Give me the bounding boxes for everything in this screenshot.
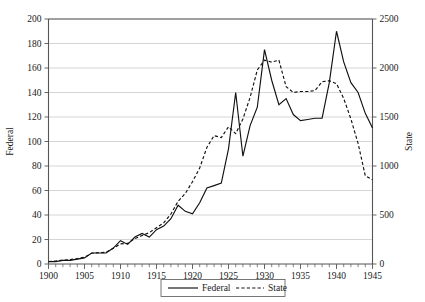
chart-background bbox=[0, 0, 425, 302]
x-tick-label: 1910 bbox=[111, 271, 130, 281]
y-tick-label-right: 1500 bbox=[380, 112, 399, 122]
y-axis-right-title: State bbox=[404, 132, 414, 151]
chart-legend: FederalState bbox=[161, 280, 287, 297]
chart-container: 1900190519101915192019251930193519401945… bbox=[0, 0, 425, 302]
x-tick-label: 1940 bbox=[327, 271, 346, 281]
y-tick-label-left: 40 bbox=[32, 210, 42, 220]
legend-label-state: State bbox=[268, 283, 287, 293]
y-tick-label-left: 140 bbox=[27, 88, 42, 98]
x-tick-label: 1905 bbox=[75, 271, 94, 281]
y-tick-label-left: 60 bbox=[32, 186, 42, 196]
x-tick-label: 1900 bbox=[39, 271, 58, 281]
legend-label-federal: Federal bbox=[202, 283, 231, 293]
y-tick-label-left: 160 bbox=[27, 63, 42, 73]
y-tick-label-left: 20 bbox=[32, 235, 42, 245]
x-tick-label: 1945 bbox=[363, 271, 382, 281]
y-tick-label-right: 1000 bbox=[380, 161, 399, 171]
y-tick-label-right: 500 bbox=[380, 210, 395, 220]
y-tick-label-right: 0 bbox=[380, 259, 385, 269]
y-tick-label-right: 2000 bbox=[380, 63, 399, 73]
y-tick-label-left: 120 bbox=[27, 112, 42, 122]
y-axis-left-title: Federal bbox=[5, 127, 15, 156]
y-tick-label-right: 2500 bbox=[380, 14, 399, 24]
x-tick-label: 1935 bbox=[291, 271, 310, 281]
y-tick-label-left: 80 bbox=[32, 161, 42, 171]
y-tick-label-left: 180 bbox=[27, 39, 42, 49]
y-tick-label-left: 100 bbox=[27, 137, 42, 147]
dual-axis-line-chart: 1900190519101915192019251930193519401945… bbox=[0, 0, 425, 302]
y-tick-label-left: 200 bbox=[27, 14, 42, 24]
y-tick-label-left: 0 bbox=[37, 259, 42, 269]
